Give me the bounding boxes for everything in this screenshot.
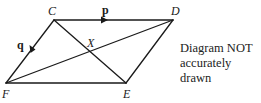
vector-label-p: p: [102, 3, 109, 17]
disclaimer-line-1: Diagram NOT: [180, 41, 261, 56]
vertex-label-e: E: [122, 87, 131, 101]
vertex-label-c: C: [48, 4, 57, 18]
vertex-label-f: F: [1, 87, 10, 101]
vertex-label-d: D: [170, 4, 180, 18]
arrow-p-icon: [101, 17, 108, 24]
intersection-label-x: X: [86, 36, 95, 50]
disclaimer-note: Diagram NOT accurately drawn: [180, 41, 261, 86]
disclaimer-line-2: accurately drawn: [180, 56, 261, 86]
vector-label-q: q: [17, 38, 24, 52]
